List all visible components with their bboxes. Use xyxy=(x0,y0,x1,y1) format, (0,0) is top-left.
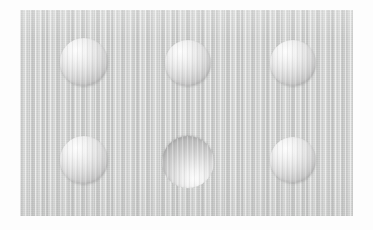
feature-r1c1-texture xyxy=(60,38,108,86)
feature-r1c3-texture xyxy=(270,40,316,86)
feature-r1c3 xyxy=(270,40,316,86)
feature-r1c2 xyxy=(165,40,211,86)
feature-r2c1 xyxy=(60,136,108,184)
image-canvas xyxy=(0,0,373,230)
feature-r2c3 xyxy=(270,137,316,183)
feature-r2c2 xyxy=(162,136,214,188)
feature-r2c2-texture xyxy=(162,136,214,188)
feature-r1c1 xyxy=(60,38,108,86)
feature-r2c3-texture xyxy=(270,137,316,183)
feature-r1c2-texture xyxy=(165,40,211,86)
feature-r2c1-texture xyxy=(60,136,108,184)
specimen-plate xyxy=(20,10,353,216)
